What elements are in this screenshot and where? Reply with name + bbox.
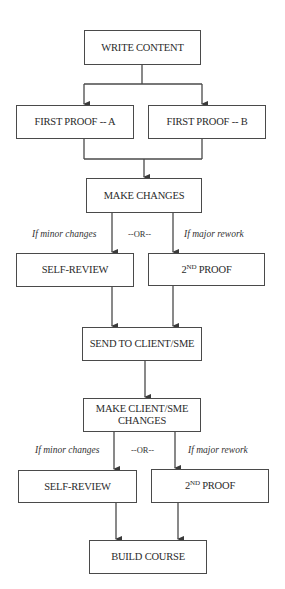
label-if-major-rework: If major rework [188,445,248,455]
node-self-review: SELF-REVIEW [18,470,137,503]
node-self-review: SELF-REVIEW [16,253,134,287]
node-make-client-changes: MAKE CLIENT/SME CHANGES [83,398,201,432]
node-build-course: BUILD COURSE [89,540,207,574]
node-label: FIRST PROOF -- A [35,116,116,128]
node-label: SELF-REVIEW [44,481,111,493]
node-first-proof-a: FIRST PROOF -- A [16,105,134,139]
node-make-changes: MAKE CHANGES [86,178,202,213]
label-if-major-rework: If major rework [184,229,244,239]
node-send-to-client: SEND TO CLIENT/SME [82,327,202,361]
label-if-minor-changes: If minor changes [35,445,99,455]
node-label: 2ND PROOF [185,480,235,492]
label-or: --OR-- [131,445,154,455]
node-label: SEND TO CLIENT/SME [90,338,195,350]
node-write-content: WRITE CONTENT [84,30,201,65]
node-first-proof-b: FIRST PROOF -- B [148,105,266,139]
label-or: --OR-- [128,229,151,239]
node-label: FIRST PROOF -- B [167,116,248,128]
node-label: MAKE CLIENT/SME CHANGES [94,403,190,427]
label-if-minor-changes: If minor changes [32,229,96,239]
node-label: WRITE CONTENT [101,42,183,54]
node-label: BUILD COURSE [111,551,185,563]
node-second-proof: 2ND PROOF [151,469,269,503]
node-label: MAKE CHANGES [104,190,185,202]
node-label: 2ND PROOF [181,264,231,276]
node-second-proof: 2ND PROOF [148,253,265,286]
node-label: SELF-REVIEW [42,264,109,276]
